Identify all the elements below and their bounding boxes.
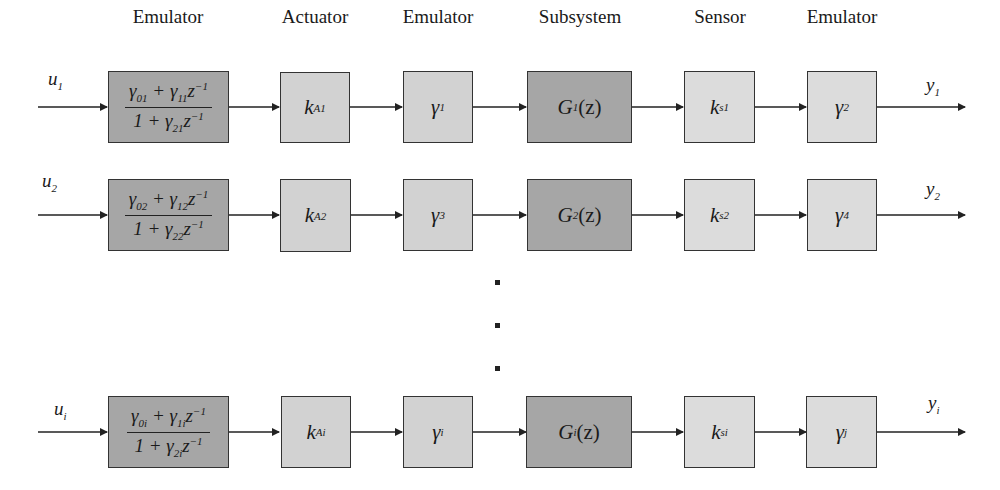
- actuator-block[interactable]: kA1: [280, 72, 350, 143]
- output-emulator-block[interactable]: γ2: [807, 71, 877, 143]
- ellipsis-dot: [495, 323, 500, 328]
- output-signal-y2: y2: [926, 178, 940, 202]
- output-signal-yi: yi: [928, 392, 940, 416]
- output-emulator-block[interactable]: γ4: [807, 179, 877, 251]
- actuator-block[interactable]: kA2: [280, 179, 351, 252]
- emulator-filter-block[interactable]: γ02 + γ12z−1 1 + γ22z−1: [108, 179, 229, 251]
- sensor-block[interactable]: ks1: [684, 71, 755, 143]
- actuator-block[interactable]: kAi: [281, 396, 351, 468]
- subsystem-block[interactable]: Gi(z): [526, 396, 632, 468]
- subsystem-block[interactable]: G2(z): [527, 179, 632, 251]
- emulator-filter-block[interactable]: γ01 + γ11z−1 1 + γ21z−1: [108, 71, 229, 143]
- sensor-block[interactable]: ksi: [684, 396, 755, 468]
- ellipsis-dot: [495, 366, 500, 371]
- output-emulator-block[interactable]: γj: [806, 396, 877, 468]
- output-signal-y1: y1: [926, 74, 940, 98]
- sensor-block[interactable]: ks2: [684, 179, 755, 251]
- emulator-gain-block[interactable]: γ3: [403, 179, 473, 251]
- transfer-denominator: 1 + γ2iz−1: [134, 433, 202, 459]
- transfer-denominator: 1 + γ22z−1: [133, 216, 204, 242]
- transfer-numerator: γ02 + γ12z−1: [125, 188, 213, 215]
- input-signal-ui: ui: [54, 398, 67, 422]
- transfer-denominator: 1 + γ21z−1: [133, 108, 204, 134]
- subsystem-block[interactable]: G1(z): [527, 71, 632, 143]
- transfer-numerator: γ0i + γ1iz−1: [127, 405, 210, 432]
- ellipsis-dot: [495, 280, 500, 285]
- emulator-filter-block[interactable]: γ0i + γ1iz−1 1 + γ2iz−1: [108, 396, 229, 468]
- input-signal-u1: u1: [48, 68, 63, 92]
- emulator-gain-block[interactable]: γ1: [403, 71, 473, 143]
- input-signal-u2: u2: [42, 170, 57, 194]
- transfer-numerator: γ01 + γ11z−1: [125, 80, 212, 107]
- emulator-gain-block[interactable]: γi: [403, 396, 473, 468]
